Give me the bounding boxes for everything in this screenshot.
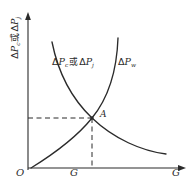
y-axis-label: ΔPc或ΔPj <box>10 2 22 74</box>
y-axis-p-2: P <box>9 19 20 25</box>
equilibrium-guide-lines <box>28 118 92 168</box>
falling-curve-subscript-2: j <box>92 62 94 68</box>
y-axis-subscript-2: j <box>15 17 21 19</box>
falling-curve-label: ΔPc或ΔPj <box>52 57 94 69</box>
y-axis-delta-1: Δ <box>9 52 20 59</box>
y-axis-subscript-1: c <box>15 43 21 46</box>
intersection-point-marker <box>90 116 93 119</box>
x-axis-label: G <box>172 168 180 178</box>
plot-canvas <box>0 0 196 190</box>
falling-curve-conjunction: 或 <box>68 57 79 67</box>
origin-label: O <box>16 168 24 178</box>
x-axis <box>28 165 186 171</box>
y-axis <box>25 12 31 170</box>
y-axis-delta-2: Δ <box>9 25 20 32</box>
x-axis-tick-label: G <box>70 168 78 178</box>
y-axis-conjunction: 或 <box>10 32 20 43</box>
rising-curve-subscript: w <box>131 62 136 68</box>
economics-curve-figure: ΔPc或ΔPj ΔPc或ΔPj ΔPw A O G G <box>0 0 196 190</box>
rising-curve-label: ΔPw <box>118 57 136 69</box>
intersection-point-label: A <box>100 110 107 119</box>
y-axis-p-1: P <box>9 46 20 52</box>
